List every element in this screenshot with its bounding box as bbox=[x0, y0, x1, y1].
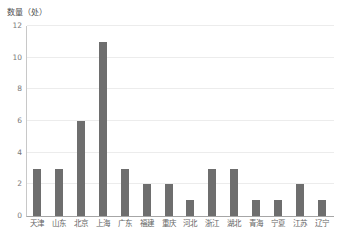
x-axis-tick-label: 湖北 bbox=[227, 219, 241, 229]
y-axis-title: 数量（处） bbox=[7, 7, 47, 18]
y-axis-tick-label: 2 bbox=[17, 180, 22, 188]
bar-slot bbox=[289, 26, 311, 216]
y-axis-tick-label: 10 bbox=[12, 54, 22, 62]
bar[interactable] bbox=[186, 200, 194, 216]
x-axis-tick-label: 北京 bbox=[74, 219, 88, 229]
bar[interactable] bbox=[230, 169, 238, 217]
bar-slot bbox=[26, 26, 48, 216]
bar[interactable] bbox=[143, 184, 151, 216]
x-axis-tick-label: 辽宁 bbox=[315, 219, 329, 229]
bar-slot bbox=[180, 26, 202, 216]
x-axis-tick-label: 上海 bbox=[96, 219, 110, 229]
x-axis-tick-label: 青海 bbox=[249, 219, 263, 229]
bar[interactable] bbox=[296, 184, 304, 216]
x-axis-tick-label: 山东 bbox=[52, 219, 66, 229]
x-axis-tick-labels: 天津山东北京上海广东福建重庆河北浙江湖北青海宁夏江苏辽宁 bbox=[26, 219, 333, 233]
bar[interactable] bbox=[274, 200, 282, 216]
y-axis-tick-label: 8 bbox=[17, 85, 22, 93]
x-axis-tick-label: 江苏 bbox=[293, 219, 307, 229]
x-axis-tick-label: 福建 bbox=[140, 219, 154, 229]
bar[interactable] bbox=[318, 200, 326, 216]
bar[interactable] bbox=[208, 169, 216, 217]
bar[interactable] bbox=[121, 169, 129, 217]
x-axis-tick-label: 河北 bbox=[183, 219, 197, 229]
x-axis-tick-label: 宁夏 bbox=[271, 219, 285, 229]
bar[interactable] bbox=[33, 169, 41, 217]
bar-slot bbox=[267, 26, 289, 216]
bar-slot bbox=[114, 26, 136, 216]
x-axis-tick-label: 天津 bbox=[30, 219, 44, 229]
y-axis-tick-labels: 024681012 bbox=[0, 26, 26, 216]
bar-slot bbox=[92, 26, 114, 216]
x-axis-tick-label: 浙江 bbox=[205, 219, 219, 229]
y-axis-tick-label: 12 bbox=[12, 22, 22, 30]
y-axis-tick-label: 6 bbox=[17, 117, 22, 125]
y-axis-tick-label: 0 bbox=[17, 212, 22, 220]
bar-slot bbox=[311, 26, 333, 216]
y-axis-tick-label: 4 bbox=[17, 149, 22, 157]
bar-slot bbox=[201, 26, 223, 216]
bar-chart: 数量（处） 024681012 天津山东北京上海广东福建重庆河北浙江湖北青海宁夏… bbox=[0, 0, 343, 250]
bar[interactable] bbox=[99, 42, 107, 216]
bar-slot bbox=[70, 26, 92, 216]
bar-slot bbox=[245, 26, 267, 216]
bar[interactable] bbox=[55, 169, 63, 217]
bar-slot bbox=[136, 26, 158, 216]
bar-slot bbox=[158, 26, 180, 216]
x-axis-tick-label: 广东 bbox=[118, 219, 132, 229]
bar-series bbox=[26, 26, 333, 216]
bar-slot bbox=[223, 26, 245, 216]
bar[interactable] bbox=[77, 121, 85, 216]
bar[interactable] bbox=[252, 200, 260, 216]
bar-slot bbox=[48, 26, 70, 216]
x-axis-tick-label: 重庆 bbox=[162, 219, 176, 229]
bar[interactable] bbox=[165, 184, 173, 216]
